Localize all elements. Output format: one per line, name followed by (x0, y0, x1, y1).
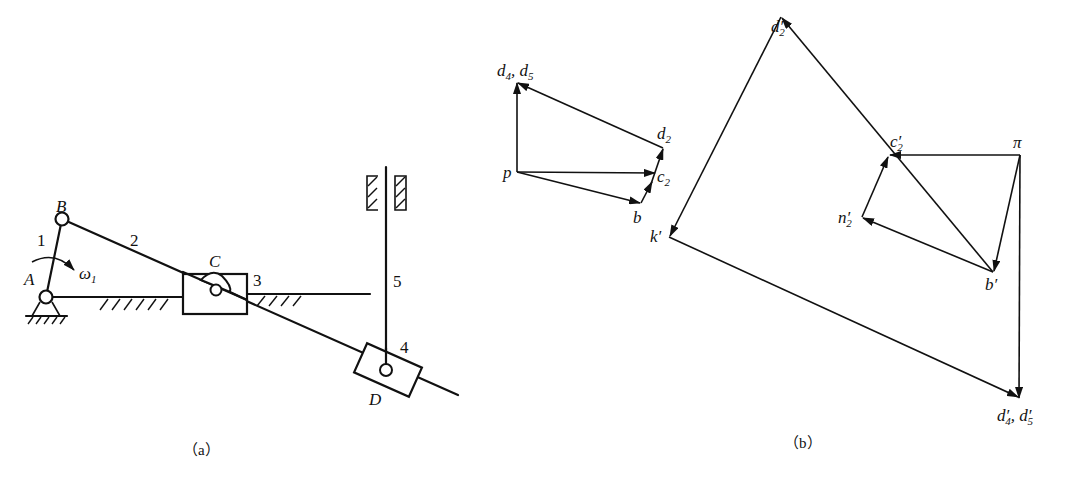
label-D: D (368, 390, 382, 409)
fixed-pivot-A (26, 302, 67, 324)
label-link-2: 2 (130, 231, 139, 250)
label-c2: c2 (657, 167, 671, 188)
label-d2: d2 (657, 124, 672, 145)
label-d4p-d5p: d′4, d′5 (997, 406, 1033, 427)
label-p: p (502, 163, 512, 182)
label-link-3: 3 (253, 271, 262, 290)
vector-pi-d45p (1019, 155, 1020, 398)
label-link-1: 1 (37, 231, 46, 250)
vector-bp-d2p (782, 18, 993, 272)
label-B: B (56, 197, 67, 216)
vector-p-b (517, 172, 640, 203)
label-link-4: 4 (400, 338, 409, 357)
ground-hatch-right (257, 296, 301, 306)
label-link-5: 5 (393, 272, 402, 291)
vector-d2-d4 (518, 83, 663, 148)
caption-a: （a） (183, 442, 220, 458)
slider-3-block (183, 272, 247, 314)
vector-b-c2 (641, 182, 652, 203)
velocity-polygon: p d4, d5 d2 c2 b (497, 61, 672, 227)
caption-b: （b） (784, 435, 822, 451)
label-b: b (633, 208, 642, 227)
label-C: C (209, 252, 221, 271)
vector-d2p-kp (670, 17, 781, 236)
vector-bp-n2p (863, 218, 993, 272)
mechanism-diagram: B A 1 2 C 3 5 4 D ω1 （a） (23, 167, 458, 458)
label-n2p: n′2 (838, 208, 852, 229)
guide-right (395, 176, 406, 210)
label-d4-d5: d4, d5 (497, 61, 534, 82)
acceleration-polygon: π d′2 c′2 n′2 b′ k′ d′4, d′5 （b） (650, 17, 1033, 451)
joint-D (380, 364, 392, 376)
label-kp: k′ (650, 227, 662, 246)
label-pi: π (1013, 133, 1022, 152)
vector-pi-bp (994, 155, 1020, 271)
label-c2p: c′2 (890, 132, 903, 153)
guide-left (367, 176, 378, 210)
vector-p-c2 (517, 172, 655, 173)
vector-n2p-c2p (862, 157, 888, 217)
label-omega: ω1 (79, 264, 97, 285)
label-d2p: d′2 (771, 17, 785, 38)
label-A: A (23, 270, 35, 289)
label-bp: b′ (985, 275, 998, 294)
joint-A (40, 291, 53, 304)
ground-hatch-left (100, 299, 168, 310)
mechanism-figure: B A 1 2 C 3 5 4 D ω1 （a） p d4, d5 d2 c2 … (0, 0, 1066, 482)
